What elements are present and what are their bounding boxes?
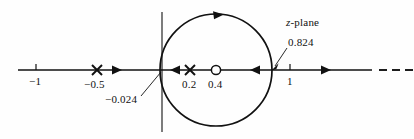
axis-tick-label-one: 1 <box>287 76 293 87</box>
plane-label-suffix: -plane <box>290 16 319 28</box>
plane-label: z-plane <box>286 17 319 28</box>
root-locus-figure: −1 1 −0.5 0.2 0.4 −0.024 0.824 z-plane <box>0 0 414 139</box>
zero-label-0-4: 0.4 <box>208 79 222 90</box>
figure-canvas <box>0 0 414 139</box>
axis-tick-label-minus-one: −1 <box>29 76 41 87</box>
arrow-left-segment-icon <box>112 66 122 75</box>
arrow-inner-left-icon <box>170 66 180 75</box>
leader-line-minus-0-024 <box>141 72 161 96</box>
leader-line-0-824 <box>275 48 287 66</box>
pole-label-0-2: 0.2 <box>182 79 196 90</box>
zero-marker-0-4 <box>211 65 220 74</box>
pole-label-minus-0-5: −0.5 <box>84 79 105 90</box>
arrow-inner-right-icon <box>250 66 260 75</box>
annotation-label-minus-0-024: −0.024 <box>105 94 137 105</box>
annotation-label-0-824: 0.824 <box>288 37 314 48</box>
arrow-right-segment-icon <box>321 66 331 75</box>
arrow-circle-top-icon <box>213 11 224 19</box>
